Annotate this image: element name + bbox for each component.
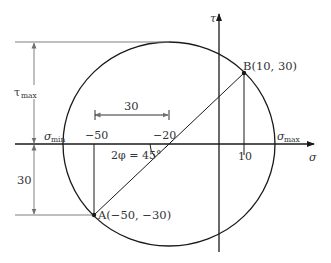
- sigma-max-label: σ max: [277, 130, 301, 144]
- point-b-label: B(10, 30): [243, 59, 297, 73]
- svg-text:τ: τ: [14, 86, 20, 99]
- mohr-circle-diagram: τ σ B(10, 30) A(−50, −30) −50 −20 10 30 …: [0, 0, 331, 263]
- sigma-min-label: σ min: [44, 130, 66, 144]
- diagram-canvas: τ σ B(10, 30) A(−50, −30) −50 −20 10 30 …: [0, 0, 331, 263]
- point-a-marker: [92, 213, 96, 217]
- svg-text:max: max: [21, 91, 38, 100]
- angle-label: 2φ = 45°: [111, 149, 161, 162]
- dim-30-vertical-label: 30: [17, 173, 32, 187]
- tick-label-minus50: −50: [85, 129, 108, 142]
- tau-axis-label: τ: [210, 12, 217, 25]
- sigma-axis-label: σ: [309, 151, 317, 164]
- tick-label-10: 10: [238, 150, 252, 163]
- tau-max-label: τ max: [12, 85, 42, 100]
- dim-30-horizontal-label: 30: [124, 99, 139, 113]
- svg-text:min: min: [51, 135, 66, 144]
- tick-label-minus20: −20: [153, 129, 176, 142]
- svg-text:max: max: [284, 135, 301, 144]
- point-a-label: A(−50, −30): [97, 208, 171, 222]
